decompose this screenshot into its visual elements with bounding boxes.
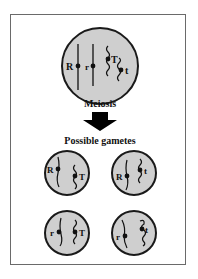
gene-label: T <box>79 228 85 238</box>
gene-label-T: T <box>111 54 118 65</box>
gamete-Rt: R t <box>112 151 156 195</box>
gene-label: r <box>116 232 120 242</box>
gene-label: t <box>144 166 147 176</box>
gene-label-R: R <box>66 61 74 72</box>
meiosis-diagram: R r T t Meiosis Possible gametes R <box>0 0 198 279</box>
gamete-rT: r T <box>45 211 89 255</box>
down-arrow-icon <box>83 112 117 131</box>
gametes-heading: Possible gametes <box>64 135 135 146</box>
gene-label: T <box>79 172 85 182</box>
meiosis-label: Meiosis <box>84 98 116 109</box>
gene-label: r <box>50 228 54 238</box>
gene-label-r: r <box>85 62 89 72</box>
gamete-rt: r t <box>112 211 156 255</box>
parent-cell: R r T t <box>62 28 138 104</box>
gene-label: R <box>47 165 54 175</box>
gene-label: t <box>145 225 148 235</box>
gene-label: R <box>116 172 123 182</box>
gamete-RT: R T <box>45 151 89 195</box>
